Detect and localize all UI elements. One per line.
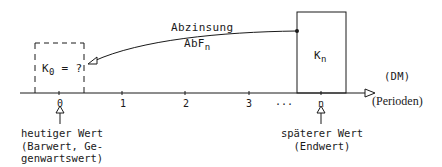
tick-label: 0 — [57, 98, 63, 109]
future-value-note: späterer Wert (Endwert) — [278, 127, 366, 152]
axis-label: (Perioden) — [372, 95, 423, 107]
note-line: genwartswert) — [21, 152, 103, 165]
note-line: (Barwert, Ge- — [21, 140, 103, 153]
present-value-label: K0 = ? — [42, 63, 82, 75]
present-value-note: heutiger Wert (Barwert, Ge- genwartswert… — [21, 127, 103, 165]
arrow-label-bottom: AbFn — [184, 38, 211, 50]
unit-label: (DM) — [384, 70, 411, 82]
tick-label: n — [318, 98, 324, 109]
discount-arrowhead — [88, 57, 97, 64]
k-symbol: K — [314, 49, 321, 62]
start-dot — [295, 29, 299, 33]
note-line: späterer Wert — [278, 127, 366, 140]
abf-symbol: AbF — [184, 37, 205, 50]
tick-label: 1 — [120, 98, 126, 109]
note-line: heutiger Wert — [21, 127, 103, 140]
k-subscript: n — [321, 54, 327, 64]
tick-label: 3 — [246, 98, 252, 109]
abf-subscript: n — [205, 42, 211, 52]
k-symbol: K — [42, 62, 49, 75]
unknown-mark: = ? — [55, 62, 83, 75]
note-line: (Endwert) — [278, 140, 366, 153]
arrow-label-top: Abzinsung — [171, 22, 233, 34]
future-value-label: Kn — [314, 50, 327, 62]
tick-label: ... — [275, 96, 293, 107]
k-subscript: 0 — [49, 67, 55, 77]
tick-label: 2 — [183, 98, 189, 109]
